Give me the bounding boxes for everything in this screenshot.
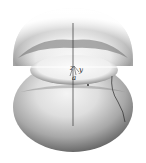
- angle-label: a: [72, 74, 76, 82]
- surface-diagram: z y a: [0, 0, 146, 163]
- point-marker: [87, 84, 89, 86]
- z-axis-label: z: [69, 64, 74, 72]
